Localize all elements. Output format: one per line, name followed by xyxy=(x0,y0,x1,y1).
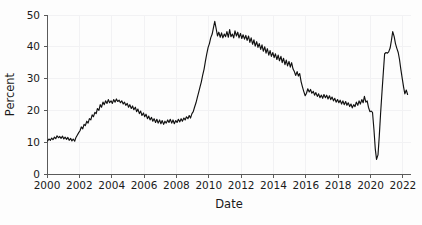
x-tick-label: 2006 xyxy=(131,179,158,191)
y-axis-title: Percent xyxy=(3,72,17,116)
axis-lines xyxy=(47,15,411,174)
y-tick-label: 40 xyxy=(27,40,40,52)
x-tick-label: 2022 xyxy=(390,179,417,191)
x-axis-title: Date xyxy=(215,197,243,211)
x-tick-label: 2016 xyxy=(292,179,319,191)
x-tick-label: 2008 xyxy=(163,179,190,191)
x-tick-label: 2020 xyxy=(357,179,384,191)
chart-container: 01020304050 2000200220042006200820102012… xyxy=(0,0,422,225)
y-tick-label: 20 xyxy=(27,104,40,116)
y-axis-ticks: 01020304050 xyxy=(27,9,47,180)
y-tick-label: 10 xyxy=(27,136,40,148)
y-tick-label: 30 xyxy=(27,72,40,84)
gridlines xyxy=(47,15,411,174)
y-tick-label: 0 xyxy=(33,168,40,180)
x-tick-label: 2012 xyxy=(228,179,255,191)
x-tick-label: 2000 xyxy=(34,179,61,191)
x-tick-label: 2004 xyxy=(98,179,125,191)
series-line-percent xyxy=(48,21,408,159)
line-chart: 01020304050 2000200220042006200820102012… xyxy=(0,0,422,225)
x-tick-label: 2014 xyxy=(260,179,287,191)
data-series-group xyxy=(48,21,408,159)
x-tick-label: 2018 xyxy=(325,179,352,191)
x-tick-label: 2010 xyxy=(195,179,222,191)
x-tick-label: 2002 xyxy=(66,179,93,191)
y-tick-label: 50 xyxy=(27,9,40,21)
x-axis-ticks: 2000200220042006200820102012201420162018… xyxy=(34,174,417,191)
